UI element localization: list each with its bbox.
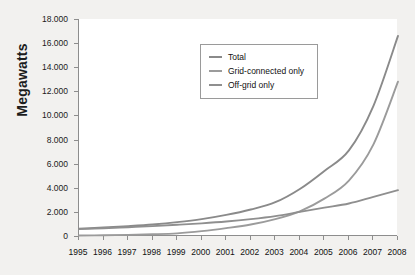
legend-swatch-off-grid	[209, 84, 222, 86]
x-tick-mark	[78, 236, 79, 240]
legend-item-total[interactable]: Total	[207, 50, 311, 64]
legend-swatch-grid-connected	[209, 70, 222, 72]
legend-item-grid-connected[interactable]: Grid-connected only	[207, 64, 311, 78]
x-tick-mark	[127, 236, 128, 240]
x-tick-mark	[176, 236, 177, 240]
x-tick-mark	[299, 236, 300, 240]
legend-label-off-grid: Off-grid only	[228, 78, 274, 92]
x-tick-mark	[348, 236, 349, 240]
x-tick-mark	[274, 236, 275, 240]
x-tick-mark	[372, 236, 373, 240]
x-tick-mark	[201, 236, 202, 240]
legend: Total Grid-connected only Off-grid only	[200, 44, 318, 99]
x-tick-mark	[397, 236, 398, 240]
x-tick-mark	[250, 236, 251, 240]
x-tick-mark	[103, 236, 104, 240]
legend-label-total: Total	[228, 50, 246, 64]
legend-swatch-total	[209, 56, 222, 58]
x-tick-mark	[323, 236, 324, 240]
x-tick-label: 2008	[377, 247, 415, 257]
legend-label-grid-connected: Grid-connected only	[228, 64, 304, 78]
chart-figure: Megawatts 02.0004.0006.0008.00010.00012.…	[0, 0, 415, 275]
series-line-off-grid	[79, 190, 398, 229]
x-tick-mark	[152, 236, 153, 240]
x-tick-mark	[225, 236, 226, 240]
legend-item-off-grid[interactable]: Off-grid only	[207, 78, 311, 92]
